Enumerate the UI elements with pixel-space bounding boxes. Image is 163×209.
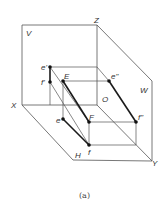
h-plane [22,105,152,161]
label-f: f [88,148,91,157]
label-f-prime: f' [41,78,45,87]
label-E: E [64,72,70,81]
point-e [61,117,65,121]
point-f-prime [48,80,52,84]
label-X: X [10,101,17,110]
v-plane [22,25,97,105]
projection-diagram: V Z W O X H Y e' f' E e" F f" e f (a) [0,0,163,209]
points [48,65,138,147]
label-e-double-prime: e" [111,72,119,81]
figure-caption: (a) [79,191,90,200]
label-O: O [102,95,108,104]
label-Z: Z [93,16,100,25]
label-e-prime: e' [41,63,47,72]
point-f [87,143,91,147]
label-W: W [140,86,149,95]
label-Y: Y [152,159,158,168]
label-f-double-prime: f" [138,113,144,122]
projection-lines [50,67,136,145]
segment-E-F [63,81,89,122]
segment-e2-f2 [109,81,136,122]
plane-frames [22,25,152,161]
segment-e-f [63,119,89,145]
point-e-prime [48,65,52,69]
label-H: H [75,151,81,160]
label-e: e [56,116,61,125]
y-axis-diagonal [97,105,152,161]
label-F: F [89,113,95,122]
label-V: V [26,29,32,38]
